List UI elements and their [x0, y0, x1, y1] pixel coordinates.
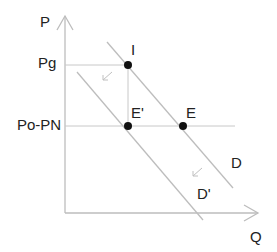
price-label-pg: Pg	[38, 55, 56, 70]
y-axis-label: P	[40, 14, 50, 29]
shift-arrow-icon	[103, 72, 112, 80]
demand-shift-diagram: P Q Pg Po-PN I E' E D D'	[0, 0, 277, 252]
x-axis-label: Q	[250, 229, 262, 244]
curve-label-d-prime: D'	[197, 186, 211, 201]
point-label-e-prime: E'	[131, 105, 144, 120]
shift-arrow-icon	[193, 168, 202, 176]
point-label-i: I	[131, 42, 135, 57]
price-label-po-pn: Po-PN	[17, 117, 61, 132]
curve-label-d: D	[231, 155, 242, 170]
point-e	[179, 122, 187, 130]
point-e-prime	[124, 122, 132, 130]
point-label-e: E	[186, 105, 196, 120]
point-i	[124, 61, 132, 69]
demand-curve-d-prime	[77, 72, 203, 220]
